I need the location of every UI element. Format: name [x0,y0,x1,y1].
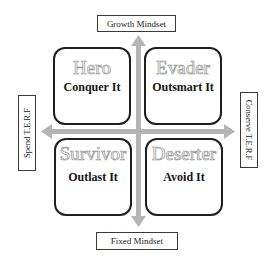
fixed-mindset-label: Fixed Mindset [96,232,178,250]
axis-arrows [0,0,272,261]
quadrant-evader: Evader Outsmart It [144,47,222,125]
quadrant-subtitle: Conquer It [55,80,129,95]
quadrant-subtitle: Outlast It [56,170,130,185]
quadrant-subtitle: Avoid It [147,170,221,185]
conserve-terf-label: Conserve T.E.R.F [240,92,258,168]
spend-terf-text: Spend T.E.R.F [22,108,32,158]
conserve-terf-text: Conserve T.E.R.F [244,100,254,161]
horizontal-axis-shaft [50,129,226,134]
quadrant-subtitle: Outsmart It [146,80,220,95]
spend-terf-label: Spend T.E.R.F [18,95,36,171]
arrow-up-icon [131,35,146,46]
growth-mindset-text: Growth Mindset [107,19,166,29]
quadrant-deserter: Deserter Avoid It [145,138,223,216]
quadrant-title: Survivor [56,144,130,164]
arrow-right-icon [224,124,235,139]
arrow-left-icon [41,124,52,139]
quadrant-hero: Hero Conquer It [53,47,131,125]
quadrant-title: Hero [55,58,129,78]
quadrant-title: Deserter [147,144,221,164]
quadrant-survivor: Survivor Outlast It [54,138,132,216]
fixed-mindset-text: Fixed Mindset [111,236,163,246]
growth-mindset-label: Growth Mindset [97,15,176,32]
quadrant-title: Evader [146,58,220,78]
arrow-down-icon [131,216,146,227]
